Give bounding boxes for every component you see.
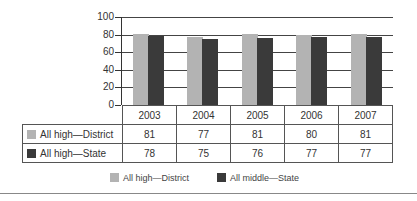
legend-item: All high—District [110,173,189,183]
table-cell: 81 [339,125,393,144]
table-cell: 78 [123,144,177,163]
gridline [121,17,393,18]
table-cell: 76 [231,144,285,163]
row-label: All high—District [23,125,123,144]
y-tick-label: 100 [88,11,114,22]
table-cell: 81 [123,125,177,144]
table-row: All high—District 81 77 81 80 81 [23,125,393,144]
table-header: 2003 [123,106,177,125]
y-tick-label: 40 [88,64,114,75]
legend-item: All middle—State [217,173,299,183]
bar [202,39,218,105]
table-header: 2005 [231,106,285,125]
swatch-icon [27,130,36,139]
bar [366,37,382,105]
y-tick-label: 80 [88,29,114,40]
table-row: All high—State 78 75 76 77 77 [23,144,393,163]
row-label-text: All high—State [40,148,106,159]
table-header: 2007 [339,106,393,125]
table-cell: 81 [231,125,285,144]
y-tick-label: 60 [88,46,114,57]
legend-label: All middle—State [230,173,299,183]
row-label-text: All high—District [40,129,113,140]
swatch-icon [27,149,36,158]
legend-swatch-icon [110,173,119,182]
y-axis-line [121,17,122,105]
bar [187,37,203,105]
table-header: 2006 [285,106,339,125]
row-label: All high—State [23,144,123,163]
table-cell: 75 [177,144,231,163]
bar [242,34,258,105]
legend-swatch-icon [217,173,226,182]
bar [296,35,312,105]
bar [133,34,149,105]
table-cell: 77 [339,144,393,163]
bar [257,38,273,105]
bar [148,36,164,105]
bar [351,34,367,105]
data-table: 2003 2004 2005 2006 2007 All high—Distri… [22,105,393,163]
y-tick-label: 20 [88,81,114,92]
legend-label: All high—District [123,173,189,183]
table-corner [23,106,123,125]
table-header: 2004 [177,106,231,125]
table-cell: 80 [285,125,339,144]
table-cell: 77 [177,125,231,144]
divider [0,193,417,194]
table-cell: 77 [285,144,339,163]
bar [311,37,327,105]
